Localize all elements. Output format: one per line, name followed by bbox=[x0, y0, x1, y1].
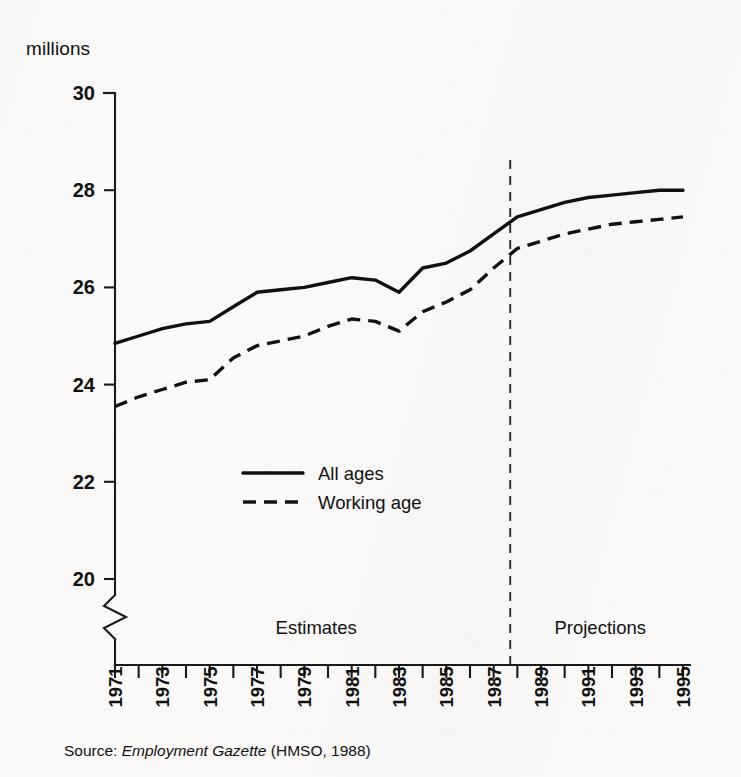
y-tick-label-28: 28 bbox=[73, 179, 95, 201]
estimates-region-label: Estimates bbox=[276, 617, 357, 638]
source-prefix: Source: bbox=[64, 742, 117, 759]
x-tick-label-1985: 1985 bbox=[436, 666, 457, 707]
series-line-working-age bbox=[115, 217, 683, 407]
chart-legend: All ages Working age bbox=[243, 463, 422, 513]
x-tick-label-1973: 1973 bbox=[152, 666, 173, 707]
x-tick-label-1991: 1991 bbox=[578, 666, 599, 707]
projections-region-label: Projections bbox=[554, 617, 646, 638]
y-tick-label-24: 24 bbox=[73, 374, 96, 396]
source-publisher: (HMSO, 1988) bbox=[271, 742, 371, 759]
x-tick-label-1989: 1989 bbox=[531, 666, 552, 707]
y-tick-label-20: 20 bbox=[73, 568, 95, 590]
x-tick-label-1981: 1981 bbox=[342, 666, 363, 707]
x-tick-label-1987: 1987 bbox=[484, 666, 505, 707]
source-note: Source: Employment Gazette (HMSO, 1988) bbox=[64, 742, 371, 760]
y-tick-label-26: 26 bbox=[73, 276, 95, 298]
source-publication-title: Employment Gazette bbox=[122, 742, 267, 759]
x-tick-label-1975: 1975 bbox=[200, 666, 221, 707]
x-tick-label-1977: 1977 bbox=[247, 666, 268, 707]
y-axis-tick-labels: 202224262830 bbox=[73, 82, 96, 590]
series-line-all-ages bbox=[115, 190, 683, 343]
x-tick-label-1971: 1971 bbox=[105, 666, 126, 707]
employment-workforce-line-chart: millions 202224262830 197119731975197719… bbox=[0, 0, 741, 777]
x-tick-label-1979: 1979 bbox=[294, 666, 315, 707]
x-tick-label-1983: 1983 bbox=[389, 666, 410, 707]
y-axis-break-symbol bbox=[104, 595, 126, 639]
x-tick-label-1993: 1993 bbox=[626, 666, 647, 707]
x-tick-label-1995: 1995 bbox=[673, 666, 694, 707]
legend-label-all-ages: All ages bbox=[318, 463, 384, 484]
chart-plot-area: 202224262830 197119731975197719791981198… bbox=[0, 0, 741, 777]
y-tick-label-30: 30 bbox=[73, 82, 95, 104]
y-tick-label-22: 22 bbox=[73, 471, 95, 493]
legend-label-working-age: Working age bbox=[318, 492, 422, 513]
x-axis-tick-labels: 1971197319751977197919811983198519871989… bbox=[105, 666, 694, 707]
y-axis-ticks bbox=[104, 93, 115, 579]
